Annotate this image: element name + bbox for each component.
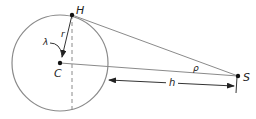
tangent-line <box>72 15 238 76</box>
label-lambda: λ <box>42 37 48 47</box>
point-C <box>58 61 62 65</box>
label-rho: ρ <box>193 63 199 73</box>
label-h: h <box>169 77 175 88</box>
label-r: r <box>61 29 66 39</box>
horizon-diagram: H C S r λ ρ h <box>0 0 256 119</box>
label-H: H <box>76 4 84 17</box>
lambda-arc-arrow <box>50 43 62 55</box>
label-S: S <box>243 71 250 84</box>
center-to-satellite-line <box>60 63 238 76</box>
altitude-tick <box>236 77 237 93</box>
point-S <box>236 74 240 78</box>
label-C: C <box>54 67 62 80</box>
point-H <box>70 13 74 17</box>
